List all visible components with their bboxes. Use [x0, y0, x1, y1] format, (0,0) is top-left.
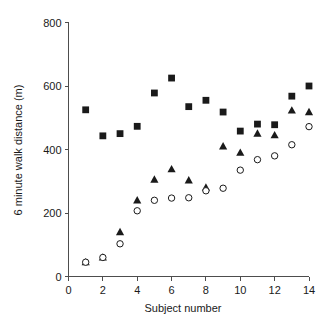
- data-point-circle: [117, 241, 123, 247]
- data-point-square: [237, 128, 244, 135]
- data-point-circle: [254, 156, 260, 162]
- data-point-circle: [203, 188, 209, 194]
- data-point-square: [168, 75, 175, 82]
- data-point-square: [185, 103, 192, 110]
- data-point-circle: [134, 208, 140, 214]
- data-point-circle: [82, 259, 88, 265]
- data-point-square: [134, 123, 141, 130]
- data-point-circle: [151, 197, 157, 203]
- data-point-square: [220, 109, 227, 116]
- data-point-square: [306, 83, 313, 90]
- data-point-triangle: [116, 228, 124, 235]
- data-point-square: [288, 93, 295, 100]
- y-axis-ticks: 0200400600800: [43, 17, 68, 283]
- series-filled-square: [82, 75, 312, 140]
- data-point-circle: [220, 185, 226, 191]
- data-point-triangle: [305, 108, 313, 115]
- data-point-circle: [186, 195, 192, 201]
- data-point-circle: [100, 254, 106, 260]
- y-tick-label: 800: [43, 17, 61, 29]
- data-point-square: [271, 121, 278, 128]
- scatter-plot: 0200400600800 02468101214 Subject number…: [0, 0, 333, 330]
- series-filled-triangle: [82, 106, 313, 265]
- x-tick-label: 14: [303, 284, 315, 296]
- y-axis-title: 6 minute walk distance (m): [12, 85, 24, 216]
- x-tick-label: 2: [100, 284, 106, 296]
- data-point-square: [99, 132, 106, 139]
- x-tick-label: 0: [65, 284, 71, 296]
- x-tick-label: 8: [203, 284, 209, 296]
- chart-figure: 0200400600800 02468101214 Subject number…: [0, 0, 333, 330]
- y-tick-label: 200: [43, 207, 61, 219]
- data-point-triangle: [271, 131, 279, 138]
- data-point-triangle: [253, 129, 261, 136]
- data-point-triangle: [236, 148, 244, 155]
- data-point-triangle: [150, 175, 158, 182]
- x-axis-ticks: 02468101214: [65, 277, 315, 296]
- y-tick-label: 600: [43, 80, 61, 92]
- data-point-square: [151, 90, 158, 97]
- data-point-square: [203, 97, 210, 104]
- data-point-triangle: [167, 165, 175, 172]
- series-open-circle: [82, 123, 312, 265]
- data-point-circle: [237, 167, 243, 173]
- y-tick-label: 0: [55, 271, 61, 283]
- data-point-square: [254, 121, 261, 128]
- x-axis-title: Subject number: [144, 302, 221, 314]
- data-point-square: [117, 130, 124, 137]
- data-point-triangle: [185, 176, 193, 183]
- data-point-circle: [168, 195, 174, 201]
- x-tick-label: 10: [234, 284, 246, 296]
- x-tick-label: 4: [134, 284, 140, 296]
- data-point-circle: [271, 153, 277, 159]
- x-tick-label: 12: [269, 284, 281, 296]
- data-point-triangle: [133, 196, 141, 203]
- data-point-circle: [289, 142, 295, 148]
- data-point-triangle: [288, 106, 296, 113]
- data-point-square: [82, 106, 89, 113]
- data-point-circle: [306, 123, 312, 129]
- x-tick-label: 6: [169, 284, 175, 296]
- data-point-triangle: [219, 142, 227, 149]
- y-tick-label: 400: [43, 144, 61, 156]
